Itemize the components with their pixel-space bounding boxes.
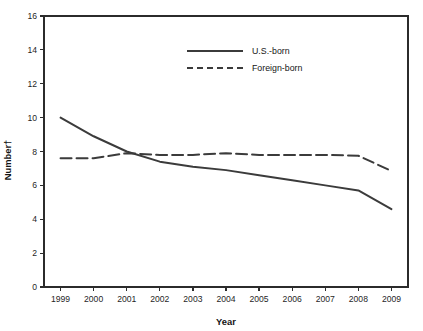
x-tick-label: 2006	[283, 294, 302, 304]
x-tick-label: 2004	[216, 294, 235, 304]
x-tick-label: 2005	[250, 294, 269, 304]
y-axis-ticks: 0246810121416	[27, 11, 44, 292]
x-tick-label: 2002	[150, 294, 169, 304]
x-tick-label: 2000	[84, 294, 103, 304]
legend-label-u-s-born: U.S.-born	[252, 46, 290, 56]
x-tick-label: 2003	[183, 294, 202, 304]
chart-legend: U.S.-bornForeign-born	[187, 46, 302, 73]
x-tick-label: 2001	[117, 294, 136, 304]
x-tick-label: 1999	[51, 294, 70, 304]
series-line-u-s-born	[61, 118, 392, 209]
y-tick-label: 6	[32, 180, 37, 190]
chart-figure: 0246810121416 19992000200120022003200420…	[0, 0, 423, 331]
y-tick-label: 14	[27, 45, 37, 55]
y-tick-label: 12	[27, 79, 37, 89]
y-tick-label: 16	[27, 11, 37, 21]
y-tick-label: 10	[27, 113, 37, 123]
x-axis-title: Year	[216, 316, 236, 327]
y-tick-label: 0	[32, 282, 37, 292]
y-tick-label: 8	[32, 147, 37, 157]
legend-label-foreign-born: Foreign-born	[252, 63, 302, 73]
y-tick-label: 4	[32, 214, 37, 224]
x-tick-label: 2007	[316, 294, 335, 304]
plot-frame	[44, 16, 408, 287]
x-tick-label: 2008	[349, 294, 368, 304]
series-line-foreign-born	[61, 153, 392, 171]
series-group	[61, 118, 392, 209]
y-axis-title: Number†	[2, 140, 13, 181]
line-chart: 0246810121416 19992000200120022003200420…	[0, 0, 423, 331]
x-axis-ticks: 1999200020012002200320042005200620072008…	[51, 287, 401, 304]
y-tick-label: 2	[32, 248, 37, 258]
x-tick-label: 2009	[382, 294, 401, 304]
